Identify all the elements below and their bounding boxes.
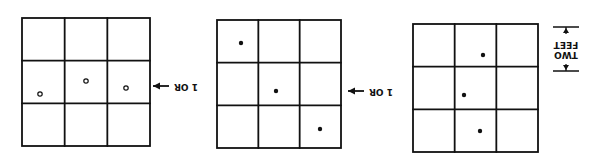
grid-right [413,24,538,152]
grid-border [413,24,538,152]
arrow-down-icon [563,65,569,70]
position-dot [239,41,243,45]
grid-left [22,18,150,146]
dimension-marker: TWOFEET [553,27,579,71]
position-dot [481,53,485,57]
position-dot [124,86,128,90]
connector-arrow-0: 1 OR [153,82,198,92]
position-dot [462,93,466,97]
grid-border [217,20,341,148]
position-dot [318,127,322,131]
diagram-canvas: 1 OR1 OR TWOFEET [0,0,601,156]
position-dot [38,92,42,96]
dimension-label: TWOFEET [553,40,578,60]
position-dot [84,79,88,83]
dimension-label-line1: TWO [554,50,578,60]
connectors-layer: 1 OR1 OR [153,82,393,97]
dimension-label-line2: FEET [553,40,578,50]
arrow-left-icon [153,83,160,90]
arrow-up-icon [563,28,569,33]
arrow-left-icon [348,88,355,95]
connector-label: 1 OR [369,87,393,97]
position-dot [274,89,278,93]
position-dot [478,129,482,133]
connector-label: 1 OR [174,82,198,92]
grid-middle [217,20,341,148]
grids-layer [22,18,538,152]
connector-arrow-1: 1 OR [348,87,393,97]
